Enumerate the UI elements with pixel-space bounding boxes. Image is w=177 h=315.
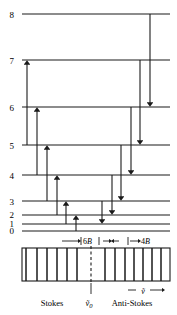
level-label-7: 7 <box>10 56 15 66</box>
rotational-raman-diagram: 8 7 6 5 4 3 2 1 0 6B 4B <box>0 0 177 315</box>
wavenumber-axis-label: ṽ <box>141 287 145 296</box>
marker-6B-label: 6B <box>83 237 92 246</box>
level-label-3: 3 <box>10 197 15 207</box>
level-label-8: 8 <box>10 10 15 20</box>
level-label-4: 4 <box>10 171 15 181</box>
level-label-5: 5 <box>10 141 15 151</box>
anti-stokes-label: Anti-Stokes <box>112 298 153 308</box>
level-label-6: 6 <box>10 103 15 113</box>
marker-4B-label: 4B <box>141 237 150 246</box>
diagram-canvas: 8 7 6 5 4 3 2 1 0 6B 4B <box>0 0 177 315</box>
level-label-0: 0 <box>10 226 15 236</box>
stokes-label: Stokes <box>41 298 64 308</box>
